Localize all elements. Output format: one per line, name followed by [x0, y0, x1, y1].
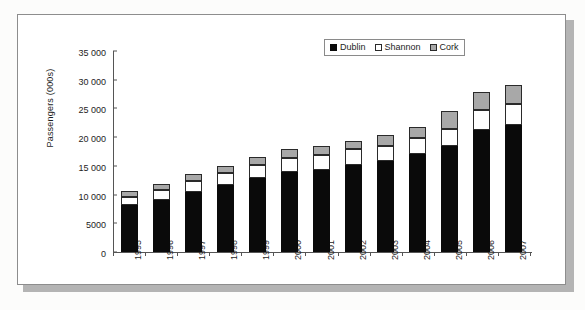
y-axis-tick-text: 35 000	[78, 48, 113, 58]
bar-segment-dublin[interactable]	[505, 125, 522, 252]
bar-segment-dublin[interactable]	[153, 200, 170, 252]
filled-gray-square-icon	[430, 44, 437, 51]
bar-segment-dublin[interactable]	[249, 178, 266, 252]
bar-segment-dublin[interactable]	[409, 154, 426, 252]
x-axis-tick-mark	[305, 252, 306, 256]
x-axis-tick-mark	[209, 252, 210, 256]
x-axis-tick-mark	[498, 252, 499, 256]
empty-white-square-icon	[375, 44, 382, 51]
x-axis-line	[113, 252, 532, 253]
legend-item-shannon[interactable]: Shannon	[375, 42, 421, 52]
y-axis-tick-label: 20 000	[18, 128, 113, 146]
bar-segment-cork[interactable]	[345, 141, 362, 149]
y-axis-tick-text: 30 000	[78, 77, 113, 87]
bar-2001[interactable]	[313, 146, 330, 252]
bar-2003[interactable]	[377, 135, 394, 252]
bar-segment-cork[interactable]	[185, 174, 202, 181]
bar-segment-shannon[interactable]	[505, 104, 522, 125]
bar-1999[interactable]	[249, 157, 266, 252]
x-axis-tick-mark	[530, 252, 531, 256]
bar-segment-cork[interactable]	[473, 92, 490, 109]
y-axis-tick-text: 15 000	[78, 163, 113, 173]
bar-segment-dublin[interactable]	[185, 192, 202, 252]
bar-1995[interactable]	[121, 191, 138, 252]
bar-segment-dublin[interactable]	[441, 146, 458, 252]
y-axis-tick-label: 10 000	[18, 186, 113, 204]
bar-segment-shannon[interactable]	[345, 149, 362, 166]
y-axis-tick-label: 25 000	[18, 99, 113, 117]
y-axis-tick-label: 15 000	[18, 157, 113, 175]
bar-2005[interactable]	[441, 111, 458, 252]
bar-segment-shannon[interactable]	[281, 158, 298, 172]
bar-segment-cork[interactable]	[313, 146, 330, 155]
y-axis-tick-text: 20 000	[78, 134, 113, 144]
bar-segment-dublin[interactable]	[281, 172, 298, 252]
bar-1997[interactable]	[185, 174, 202, 252]
legend-item-cork[interactable]: Cork	[430, 42, 459, 52]
x-axis-tick-mark	[402, 252, 403, 256]
bar-1996[interactable]	[153, 184, 170, 252]
y-axis-tick-label: 0	[18, 243, 113, 261]
bar-segment-shannon[interactable]	[153, 190, 170, 200]
bar-segment-cork[interactable]	[505, 85, 522, 103]
chart-frame: Passengers (000s) 0500010 00015 00020 00…	[17, 14, 566, 285]
bar-segment-shannon[interactable]	[185, 181, 202, 192]
bar-segment-shannon[interactable]	[409, 138, 426, 154]
legend-item-dublin[interactable]: Dublin	[330, 42, 366, 52]
bar-segment-shannon[interactable]	[249, 165, 266, 178]
bar-2007[interactable]	[505, 85, 522, 252]
stacked-bar-chart: Passengers (000s) 0500010 00015 00020 00…	[18, 15, 567, 286]
x-axis-tick-mark	[241, 252, 242, 256]
bar-2004[interactable]	[409, 127, 426, 252]
bar-segment-dublin[interactable]	[217, 185, 234, 252]
legend-item-label: Cork	[440, 42, 459, 52]
bar-segment-shannon[interactable]	[377, 146, 394, 161]
x-axis-tick-mark	[113, 252, 114, 256]
x-axis-tick-mark	[466, 252, 467, 256]
bar-2006[interactable]	[473, 92, 490, 252]
bar-2002[interactable]	[345, 141, 362, 252]
bar-segment-dublin[interactable]	[345, 165, 362, 252]
scanned-page: Passengers (000s) 0500010 00015 00020 00…	[0, 0, 585, 310]
bar-1998[interactable]	[217, 166, 234, 252]
y-axis-tick-text: 0	[101, 249, 113, 259]
y-axis-tick-label: 30 000	[18, 71, 113, 89]
bar-segment-cork[interactable]	[441, 111, 458, 129]
bar-segment-dublin[interactable]	[121, 205, 138, 252]
bar-segment-cork[interactable]	[249, 157, 266, 164]
x-axis-tick-mark	[145, 252, 146, 256]
bar-segment-cork[interactable]	[377, 135, 394, 146]
y-axis-tick-text: 25 000	[78, 105, 113, 115]
legend-item-label: Shannon	[385, 42, 421, 52]
y-axis-tick-label: 35 000	[18, 42, 113, 60]
chart-legend: DublinShannonCork	[324, 39, 465, 56]
x-axis-tick-mark	[370, 252, 371, 256]
plot-area	[113, 51, 530, 252]
bar-segment-shannon[interactable]	[121, 197, 138, 206]
y-axis-tick-text: 5000	[86, 220, 113, 230]
bar-segment-dublin[interactable]	[473, 130, 490, 252]
filled-black-square-icon	[330, 44, 337, 51]
bar-2000[interactable]	[281, 149, 298, 252]
y-axis-tick-label: 5000	[18, 214, 113, 232]
y-axis-tick-text: 10 000	[78, 192, 113, 202]
bar-segment-shannon[interactable]	[313, 155, 330, 170]
x-axis-tick-mark	[338, 252, 339, 256]
bar-segment-shannon[interactable]	[217, 173, 234, 185]
bar-segment-cork[interactable]	[281, 149, 298, 158]
bar-segment-shannon[interactable]	[473, 110, 490, 131]
legend-item-label: Dublin	[340, 42, 366, 52]
bar-segment-shannon[interactable]	[441, 129, 458, 146]
bar-segment-cork[interactable]	[409, 127, 426, 138]
x-axis-tick-mark	[273, 252, 274, 256]
bar-segment-dublin[interactable]	[313, 170, 330, 252]
x-axis-tick-mark	[177, 252, 178, 256]
x-axis-tick-mark	[434, 252, 435, 256]
bar-segment-dublin[interactable]	[377, 161, 394, 252]
